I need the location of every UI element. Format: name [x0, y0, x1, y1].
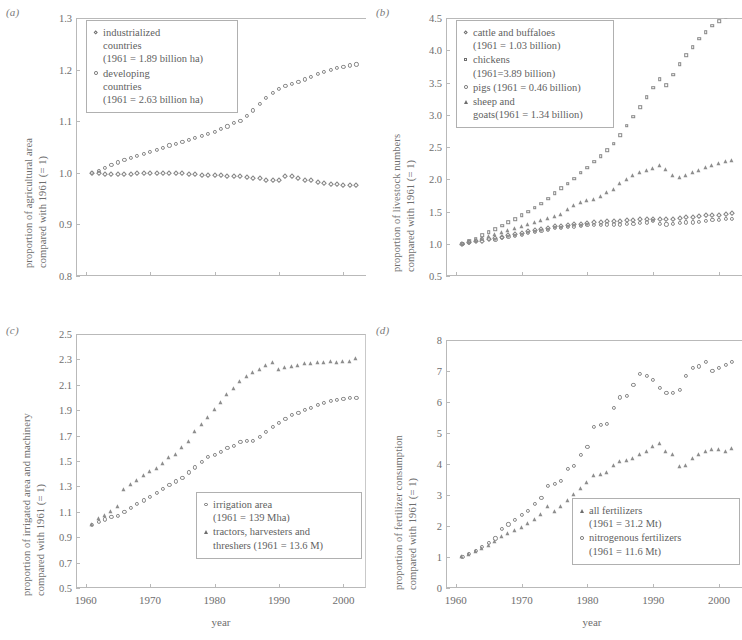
- y-tick-label: 1.0: [402, 238, 445, 249]
- data-point-circle: [264, 96, 268, 100]
- data-point-circle: [341, 397, 345, 401]
- data-point-circle: [154, 491, 158, 495]
- data-point-triangle: [167, 456, 172, 461]
- y-tick-label: 8: [402, 335, 445, 346]
- data-point-square: [678, 63, 682, 67]
- data-point-triangle: [644, 168, 649, 173]
- data-point-circle: [513, 518, 517, 522]
- data-point-circle: [684, 220, 688, 224]
- x-tick-label: 1980: [204, 594, 226, 606]
- data-point-triangle: [218, 400, 223, 405]
- data-point-triangle: [578, 486, 583, 491]
- data-point-triangle: [723, 160, 728, 165]
- data-point-triangle: [160, 461, 165, 466]
- data-point-triangle: [244, 374, 249, 379]
- data-point-circle: [225, 446, 229, 450]
- data-point-triangle: [283, 366, 288, 371]
- data-point-circle: [258, 102, 262, 106]
- x-tick-label: 1960: [445, 594, 467, 606]
- data-point-triangle: [135, 479, 140, 484]
- panel-label-b: (b): [376, 6, 389, 18]
- data-point-triangle: [697, 168, 702, 173]
- y-tick-label: 0.9: [32, 219, 75, 230]
- data-point-circle: [129, 156, 133, 160]
- data-point-square: [526, 210, 530, 214]
- data-point-circle: [142, 498, 146, 502]
- data-point-square: [559, 186, 563, 190]
- data-point-square: [632, 115, 636, 119]
- data-point-diamond: [670, 216, 675, 221]
- data-point-circle: [612, 222, 616, 226]
- data-point-circle: [664, 391, 668, 395]
- data-point-circle: [552, 482, 556, 486]
- data-point-circle: [290, 82, 294, 86]
- data-point-circle: [651, 218, 655, 222]
- data-point-square: [513, 217, 517, 221]
- data-point-circle: [167, 143, 171, 147]
- data-point-triangle: [585, 480, 590, 485]
- data-point-circle: [506, 522, 510, 526]
- data-point-circle: [730, 360, 734, 364]
- data-point-circle: [658, 222, 662, 226]
- data-point-diamond: [354, 182, 359, 187]
- data-point-diamond: [697, 213, 702, 218]
- data-point-circle: [645, 220, 649, 224]
- data-point-diamond: [122, 171, 127, 176]
- y-tick-label: 3: [402, 490, 445, 501]
- data-point-triangle: [552, 215, 557, 220]
- data-point-circle: [506, 235, 510, 239]
- data-point-triangle: [710, 447, 715, 452]
- data-point-triangle: [122, 487, 127, 492]
- data-point-square: [500, 224, 504, 228]
- data-point-circle: [631, 222, 635, 226]
- y-tick-label: 1.9: [32, 405, 75, 416]
- data-point-circle: [193, 465, 197, 469]
- data-point-triangle: [341, 359, 346, 364]
- data-layer-panel-d: [446, 340, 742, 588]
- data-point-triangle: [154, 466, 159, 471]
- y-tick-mark: [446, 588, 450, 589]
- data-point-circle: [500, 236, 504, 240]
- data-point-circle: [148, 150, 152, 154]
- data-point-circle: [677, 388, 681, 392]
- y-tick-label: 4.0: [402, 45, 445, 56]
- data-point-triangle: [585, 198, 590, 203]
- y-tick-label: 1.0: [32, 167, 75, 178]
- y-tick-label: 2.3: [32, 354, 75, 365]
- data-point-diamond: [251, 175, 256, 180]
- x-tick-label: 1990: [268, 594, 290, 606]
- y-tick-label: 2.5: [32, 329, 75, 340]
- y-tick-label: 7: [402, 366, 445, 377]
- data-point-triangle: [506, 228, 511, 233]
- data-point-circle: [109, 515, 113, 519]
- data-point-triangle: [598, 195, 603, 200]
- y-tick-label: 3.5: [402, 77, 445, 88]
- data-point-circle: [572, 224, 576, 228]
- data-point-circle: [142, 152, 146, 156]
- data-point-circle: [513, 234, 517, 238]
- data-point-circle: [322, 400, 326, 404]
- y-tick-label: 0.5: [402, 271, 445, 282]
- data-point-circle: [348, 395, 352, 399]
- data-point-triangle: [251, 371, 256, 376]
- data-point-circle: [625, 394, 629, 398]
- data-point-circle: [341, 64, 345, 68]
- data-point-circle: [566, 467, 570, 471]
- data-point-circle: [526, 508, 530, 512]
- data-point-circle: [264, 430, 268, 434]
- data-point-square: [612, 142, 616, 146]
- data-point-triangle: [723, 449, 728, 454]
- data-point-square: [724, 18, 728, 19]
- data-point-circle: [697, 364, 701, 368]
- data-point-triangle: [611, 187, 616, 192]
- data-point-diamond: [315, 179, 320, 184]
- data-point-triangle: [180, 446, 185, 451]
- data-point-diamond: [703, 213, 708, 218]
- data-point-square: [579, 171, 583, 175]
- data-point-triangle: [683, 463, 688, 468]
- data-point-square: [546, 197, 550, 201]
- data-layer-panel-a: [76, 18, 366, 276]
- data-point-circle: [238, 119, 242, 123]
- data-point-circle: [572, 463, 576, 467]
- data-point-triangle: [730, 158, 735, 163]
